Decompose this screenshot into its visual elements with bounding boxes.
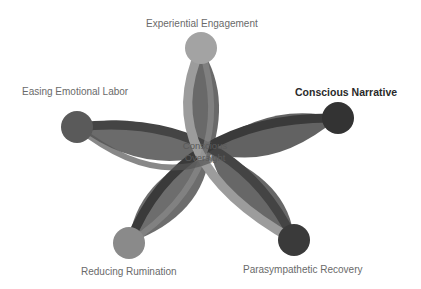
center-label: Conscious Oversight — [180, 140, 230, 164]
label-reducing-rumination: Reducing Rumination — [81, 266, 177, 277]
label-easing-emotional-labor: Easing Emotional Labor — [22, 86, 128, 97]
node-experiential-engagement[interactable] — [185, 32, 217, 64]
label-conscious-narrative: Conscious Narrative — [295, 86, 397, 98]
node-easing-emotional-labor[interactable] — [61, 111, 93, 143]
center-label-line2: Oversight — [180, 152, 230, 164]
center-label-line1: Conscious — [180, 140, 230, 152]
node-reducing-rumination[interactable] — [113, 227, 145, 259]
label-experiential-engagement: Experiential Engagement — [146, 18, 258, 29]
label-parasympathetic-recovery: Parasympathetic Recovery — [243, 264, 363, 275]
node-conscious-narrative[interactable] — [322, 102, 354, 134]
node-parasympathetic-recovery[interactable] — [278, 224, 310, 256]
